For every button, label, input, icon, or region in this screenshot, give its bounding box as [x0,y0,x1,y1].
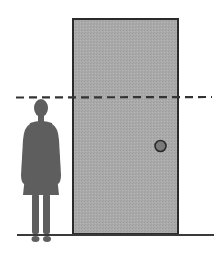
door [73,19,178,234]
doorknob-icon [155,141,166,152]
head-height-line [16,97,212,98]
door-height-diagram [0,0,220,253]
person-silhouette-icon [21,99,61,242]
